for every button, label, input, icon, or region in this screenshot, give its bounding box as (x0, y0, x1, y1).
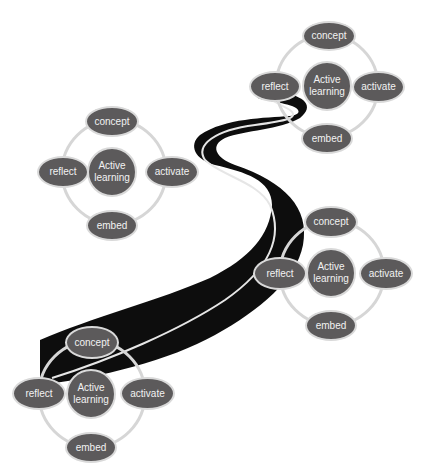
node-reflect: reflect (12, 377, 66, 410)
node-active-learning: Active learning (66, 369, 116, 419)
node-concept: concept (65, 326, 119, 359)
node-embed: embed (65, 432, 117, 463)
node-activate: activate (120, 377, 175, 410)
node-reflect: reflect (37, 156, 89, 188)
node-activate: activate (352, 71, 405, 103)
node-active-learning: Active learning (302, 61, 352, 111)
node-active-learning: Active learning (87, 147, 137, 197)
node-activate: activate (145, 156, 199, 188)
node-reflect: reflect (249, 71, 301, 102)
node-reflect: reflect (253, 257, 307, 290)
node-concept: concept (302, 21, 356, 51)
node-concept: concept (85, 106, 139, 137)
node-concept: concept (304, 206, 358, 238)
learning-road-diagram: concept Active learning reflect activate… (0, 0, 435, 474)
node-activate: activate (359, 257, 413, 290)
node-embed: embed (301, 123, 353, 154)
node-embed: embed (305, 310, 357, 341)
node-active-learning: Active learning (306, 248, 356, 298)
node-embed: embed (86, 210, 138, 241)
